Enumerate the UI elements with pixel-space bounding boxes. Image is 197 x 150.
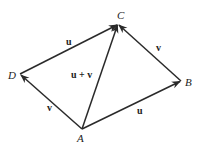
point-label-d: D: [7, 69, 16, 81]
vector-bc: [119, 25, 181, 81]
edge-label-ab: u: [137, 105, 143, 116]
parallelogram-diagram: C D B A u v u + v v u: [0, 0, 197, 150]
edge-label-dc: u: [66, 36, 72, 47]
vector-dc: [20, 25, 117, 74]
point-label-a: A: [76, 132, 84, 144]
point-label-c: C: [117, 9, 125, 21]
edge-label-ad: v: [47, 102, 52, 113]
edge-label-ac: u + v: [71, 69, 92, 80]
edge-label-bc: v: [156, 42, 161, 53]
vector-ab: [82, 82, 180, 130]
point-label-b: B: [185, 76, 192, 88]
